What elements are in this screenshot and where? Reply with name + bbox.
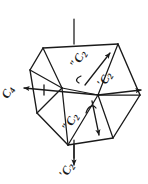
c2-dprime-top-rotation-hook [77, 76, 81, 83]
symmetry-axes-figure: C4 ′C2 ′C2 ″C2 ″C2 [0, 0, 148, 184]
figure-linework [0, 0, 148, 184]
c2-prime-horizontal-axis [24, 85, 141, 95]
